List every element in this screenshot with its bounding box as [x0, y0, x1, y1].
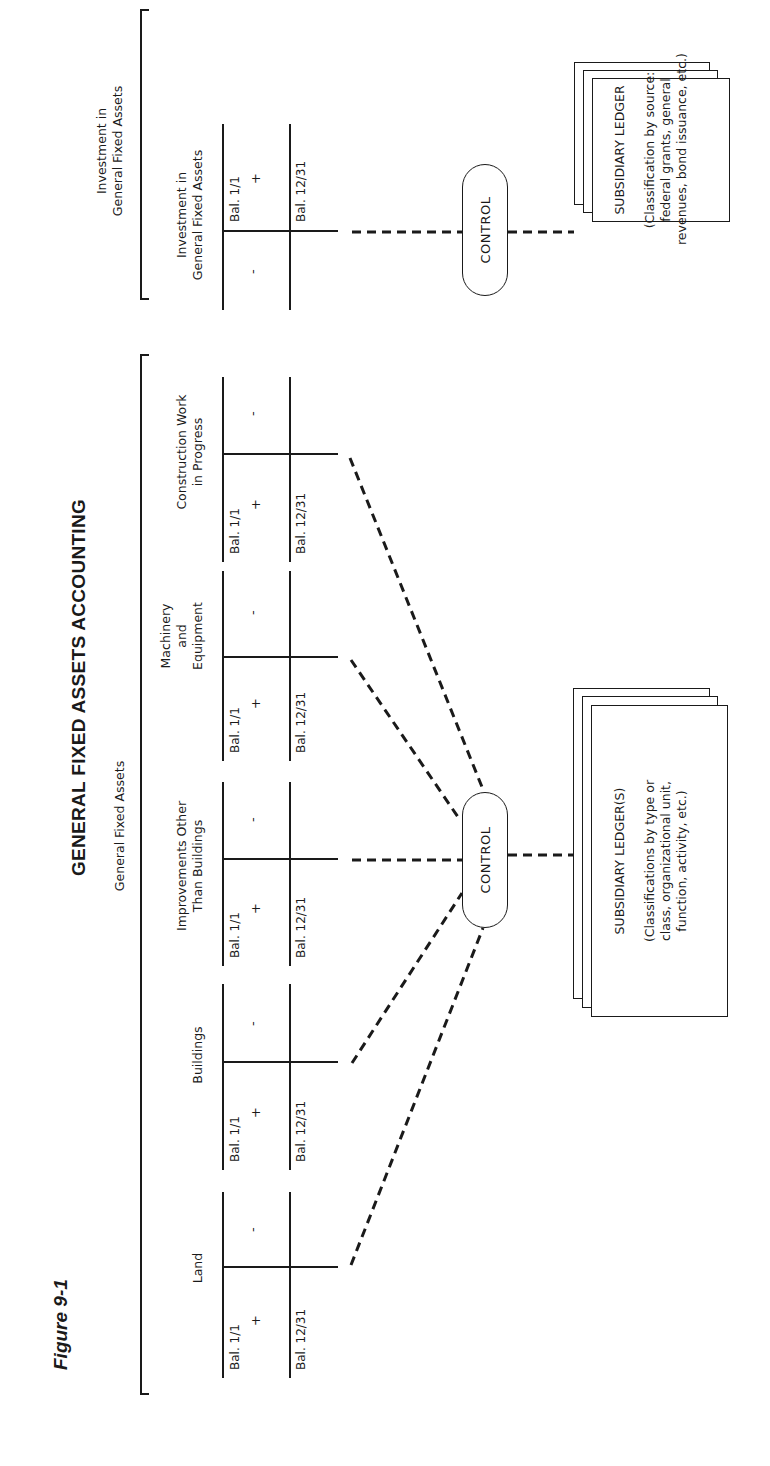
- ledger-description: (Classifications by type or class, organ…: [642, 705, 690, 1017]
- ledger-description-line: (Classifications by type or: [642, 705, 658, 1017]
- connector-land: [351, 928, 483, 1265]
- diagram-canvas: Figure 9-1 GENERAL FIXED ASSETS ACCOUNTI…: [0, 0, 770, 1466]
- ledger-description-line: class, organizational unit,: [658, 705, 674, 1017]
- control-node-general-fixed-assets: CONTROL: [462, 792, 508, 928]
- connector-cwip: [350, 458, 484, 792]
- ledger-description-line: function, activity, etc.): [674, 705, 690, 1017]
- control-node-investment: CONTROL: [462, 164, 508, 296]
- ledger-title: SUBSIDIARY LEDGER: [612, 57, 628, 243]
- connector-buildings: [352, 893, 462, 1063]
- ledger-title: SUBSIDIARY LEDGER(S): [612, 705, 628, 1017]
- connector-machinery: [351, 660, 460, 820]
